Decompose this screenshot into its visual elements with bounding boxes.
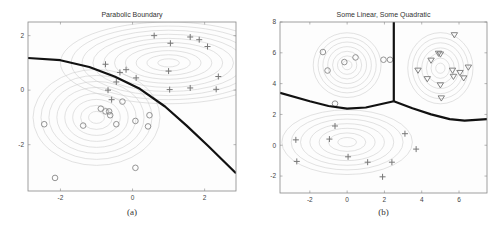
x-tick-label: 2 [203, 194, 207, 201]
y-tick-label: -2 [18, 141, 24, 148]
plot-some-linear-some-quadratic: -20246-202468Some Linear, Some Quadratic… [270, 11, 487, 217]
plot-area [280, 22, 487, 193]
y-tick-label: 2 [272, 111, 276, 118]
plot-parabolic-boundary: -202-202Parabolic Boundary(a) [18, 11, 277, 217]
y-tick-label: 0 [20, 86, 24, 93]
chart-title: Some Linear, Some Quadratic [337, 11, 431, 19]
x-tick-label: 2 [383, 196, 387, 203]
y-tick-label: 0 [272, 142, 276, 149]
y-tick-label: -2 [270, 172, 276, 179]
subfigure-caption: (b) [378, 207, 389, 217]
x-tick-label: 6 [457, 196, 461, 203]
x-tick-label: -2 [307, 196, 313, 203]
y-tick-label: 6 [272, 49, 276, 56]
y-tick-label: 8 [272, 18, 276, 25]
x-tick-label: 4 [420, 196, 424, 203]
y-tick-label: 4 [272, 80, 276, 87]
x-tick-label: 0 [131, 194, 135, 201]
chart-title: Parabolic Boundary [101, 11, 163, 19]
figure: -202-202Parabolic Boundary(a) -20246-202… [0, 0, 502, 229]
subfigure-caption: (a) [127, 207, 137, 217]
y-tick-label: 2 [20, 32, 24, 39]
x-tick-label: 0 [345, 196, 349, 203]
x-tick-label: -2 [58, 194, 64, 201]
